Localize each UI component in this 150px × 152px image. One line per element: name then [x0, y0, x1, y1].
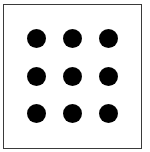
dot-icon — [99, 67, 118, 86]
dot-icon — [63, 104, 82, 123]
dot-icon — [27, 104, 46, 123]
dot-icon — [27, 67, 46, 86]
dot-icon — [99, 104, 118, 123]
dot-icon — [63, 67, 82, 86]
dot-icon — [99, 29, 118, 48]
dot-icon — [63, 29, 82, 48]
dot-icon — [27, 29, 46, 48]
